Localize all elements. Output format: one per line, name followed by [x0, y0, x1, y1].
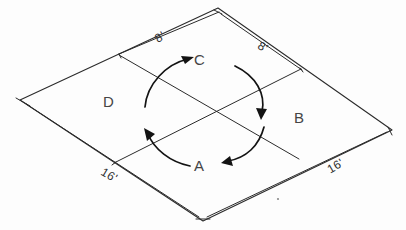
quadrant-label-b: B [294, 109, 305, 126]
quadrant-label-d: D [103, 93, 114, 110]
divider-line-sw-ne [114, 69, 301, 163]
rotation-arrow-a-to-d [144, 128, 190, 166]
divider-stub-right [300, 68, 303, 72]
rotation-arrow-d-to-c [145, 56, 194, 107]
quadrant-label-c: C [194, 51, 205, 68]
rotation-arrow-b-to-a [221, 127, 264, 166]
stray-mark [277, 198, 279, 200]
dimension-line-top-left [119, 12, 219, 54]
diagram-linework [0, 0, 406, 230]
diagram-canvas: C D B A 8' 8' 16' 16' [0, 0, 406, 230]
divider-line-nw-se [119, 55, 299, 159]
plot-outline [20, 8, 392, 221]
quadrant-label-a: A [194, 157, 205, 174]
rotation-arrow-c-to-b [235, 66, 267, 120]
dimension-line-bottom-right [207, 132, 387, 217]
